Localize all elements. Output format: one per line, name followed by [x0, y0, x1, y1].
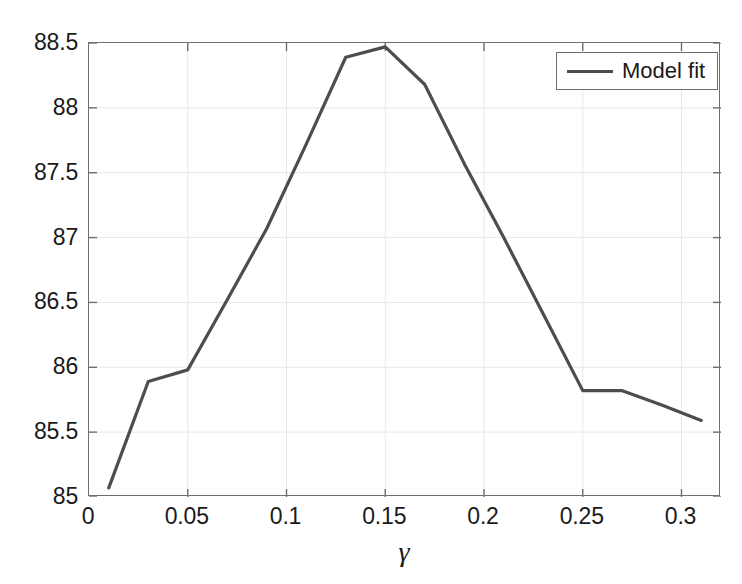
legend-label: Model fit	[622, 60, 705, 82]
figure-canvas: 8585.58686.58787.58888.5 00.050.10.150.2…	[0, 0, 742, 584]
y-tick-label: 87.5	[34, 161, 78, 184]
y-tick-label: 86.5	[34, 290, 78, 313]
y-tick-label: 87	[53, 226, 78, 249]
plot-area	[88, 42, 720, 496]
plot-svg	[89, 43, 721, 497]
y-axis-tick-labels: 8585.58686.58787.58888.5	[0, 0, 78, 584]
legend-line-swatch	[567, 70, 613, 73]
x-axis-label: γ	[88, 538, 720, 566]
y-tick-label: 86	[53, 355, 78, 378]
gridlines	[89, 43, 721, 497]
x-tick-label: 0.1	[270, 505, 301, 528]
model-fit-line	[109, 47, 702, 488]
x-tick-label: 0	[82, 505, 95, 528]
x-tick-label: 0.3	[665, 505, 696, 528]
y-tick-label: 85.5	[34, 420, 78, 443]
x-tick-label: 0.05	[165, 505, 209, 528]
x-axis-tick-labels: 00.050.10.150.20.250.3	[0, 505, 742, 539]
axis-ticks	[89, 43, 721, 497]
y-tick-label: 88.5	[34, 31, 78, 54]
x-tick-label: 0.2	[467, 505, 498, 528]
legend-box: Model fit	[556, 52, 718, 90]
x-tick-label: 0.25	[560, 505, 604, 528]
x-tick-label: 0.15	[362, 505, 406, 528]
y-tick-label: 88	[53, 96, 78, 119]
